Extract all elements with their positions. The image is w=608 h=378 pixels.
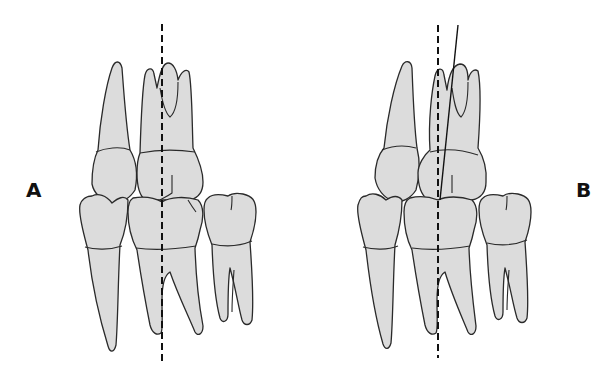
lower-second-molar-a bbox=[204, 193, 256, 324]
teeth-illustration bbox=[0, 0, 608, 378]
lower-premolar-b bbox=[358, 194, 402, 348]
upper-premolar-a bbox=[92, 62, 136, 203]
upper-premolar-b bbox=[375, 62, 419, 202]
dental-occlusion-figure: A B bbox=[0, 0, 608, 378]
upper-molar-a bbox=[137, 63, 203, 200]
lower-premolar-a bbox=[80, 195, 128, 351]
lower-molar-a bbox=[128, 197, 203, 334]
lower-second-molar-b bbox=[479, 193, 531, 322]
lower-molar-b bbox=[404, 197, 477, 335]
panel-a bbox=[80, 24, 256, 365]
panel-b bbox=[358, 25, 531, 358]
